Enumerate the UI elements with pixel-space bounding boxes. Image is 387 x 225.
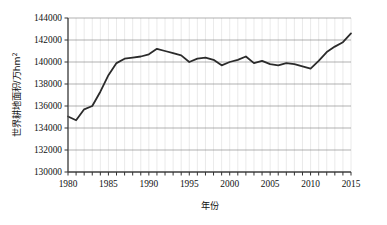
y-axis-tick-labels: 1300001320001340001360001380001400001420…: [34, 13, 62, 177]
x-axis-tick-label: 2010: [301, 179, 320, 189]
y-axis-tick-label: 144000: [34, 13, 62, 23]
x-axis-tick-label: 2005: [261, 179, 280, 189]
x-axis-tick-label: 2015: [342, 179, 361, 189]
y-axis-tick-label: 130000: [34, 167, 62, 177]
y-axis-tick-label: 132000: [34, 145, 62, 155]
chart-container: 1300001320001340001360001380001400001420…: [0, 0, 387, 225]
y-axis-tick-label: 136000: [34, 101, 62, 111]
y-axis-tick-label: 140000: [34, 57, 62, 67]
y-axis-tick-label: 138000: [34, 79, 62, 89]
line-chart: 1300001320001340001360001380001400001420…: [0, 0, 387, 225]
x-axis-tick-label: 1995: [180, 179, 199, 189]
x-axis-tick-label: 2000: [220, 179, 239, 189]
x-axis-tick-label: 1990: [139, 179, 158, 189]
plot-area-background: [68, 18, 351, 172]
x-axis-title: 年份: [201, 200, 219, 211]
y-axis-tick-label: 142000: [34, 35, 62, 45]
y-axis-tick-label: 134000: [34, 123, 62, 133]
y-axis-title: 世界耕地面积/万hm2: [11, 53, 22, 138]
x-axis-tick-label: 1985: [99, 179, 118, 189]
x-axis-tick-labels: 19801985199019952000200520102015: [59, 179, 361, 189]
svg-text:世界耕地面积/万hm2: 世界耕地面积/万hm2: [11, 53, 22, 138]
x-axis-tick-label: 1980: [59, 179, 78, 189]
